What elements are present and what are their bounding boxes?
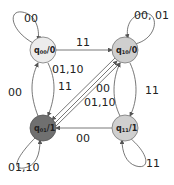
- label-loop-q01: 01,10: [8, 161, 40, 174]
- label-q10-q11: 11: [145, 84, 159, 97]
- label-q00-q10: 11: [76, 36, 90, 49]
- label-diag-0110: 01,10: [84, 96, 116, 109]
- label-diag-11: 11: [58, 80, 72, 93]
- state-q01: q01/1: [30, 115, 56, 141]
- label-diag-00: 00: [96, 82, 110, 95]
- state-q11: q11/1: [112, 115, 138, 141]
- loop-q11: [122, 138, 146, 167]
- label-loop-q00: 00: [24, 12, 38, 25]
- label-q11-q01: 00: [76, 132, 90, 145]
- state-q00: q00/0: [30, 37, 56, 63]
- edge-q10-q11: [130, 63, 136, 116]
- state-diagram: q00/0 q10/0 q01/1 q11/1 00 00, 01 01,10 …: [0, 0, 174, 185]
- edge-q01-q00: [32, 63, 38, 116]
- label-q01-q00: 00: [8, 86, 22, 99]
- label-loop-q10: 00, 01: [134, 9, 169, 22]
- label-loop-q11: 11: [146, 157, 160, 170]
- label-q00-q01: 01,10: [52, 63, 84, 76]
- state-q10: q10/0: [112, 37, 138, 63]
